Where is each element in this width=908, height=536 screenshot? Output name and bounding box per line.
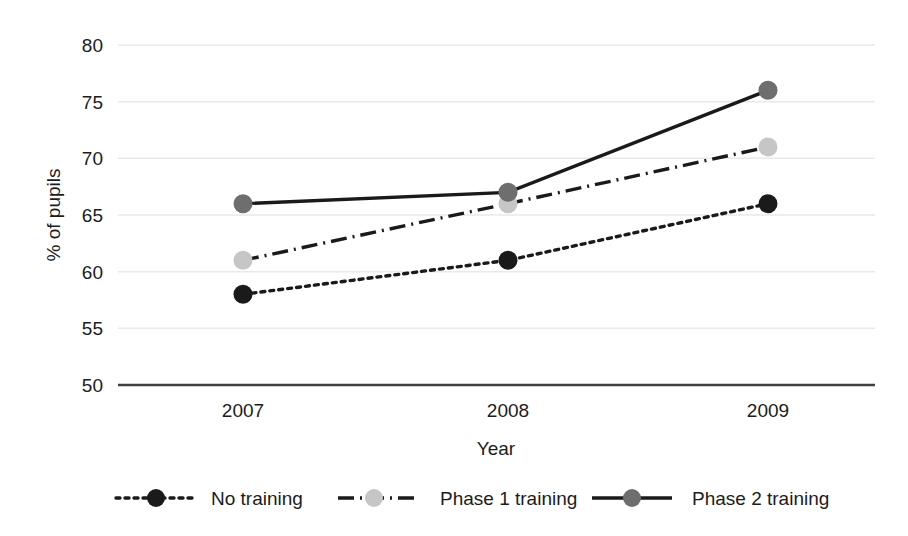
data-point-phase-2-training-2007 (234, 194, 253, 213)
legend: No training Phase 1 training Phase 2 tra… (116, 488, 829, 509)
y-tick-label-60: 60 (82, 262, 103, 283)
x-axis-title: Year (477, 438, 516, 459)
legend-item-phase-2-training[interactable]: Phase 2 training (592, 488, 829, 509)
legend-item-phase-1-training[interactable]: Phase 1 training (338, 488, 577, 509)
data-point-no-training-2008 (499, 251, 518, 270)
y-tick-label-50: 50 (82, 375, 103, 396)
y-tick-label-70: 70 (82, 148, 103, 169)
chart-background (0, 0, 908, 536)
data-point-no-training-2009 (759, 194, 778, 213)
data-point-phase-1-training-2009 (759, 138, 778, 157)
line-chart: 80 75 70 65 60 55 50 % of pupils 2007 20… (0, 0, 908, 536)
y-tick-label-65: 65 (82, 205, 103, 226)
x-tick-label-2009: 2009 (747, 400, 789, 421)
y-tick-label-55: 55 (82, 318, 103, 339)
x-tick-label-2008: 2008 (487, 400, 529, 421)
legend-marker-no-training (147, 489, 165, 507)
legend-label-phase-1-training: Phase 1 training (440, 488, 577, 509)
legend-label-phase-2-training: Phase 2 training (692, 488, 829, 509)
legend-label-no-training: No training (211, 488, 303, 509)
y-tick-label-80: 80 (82, 35, 103, 56)
legend-marker-phase-2-training (623, 489, 641, 507)
x-tick-label-2007: 2007 (222, 400, 264, 421)
data-point-phase-2-training-2008 (499, 183, 518, 202)
y-axis-title: % of pupils (43, 169, 64, 262)
data-point-phase-1-training-2007 (234, 251, 253, 270)
data-point-no-training-2007 (234, 285, 253, 304)
legend-marker-phase-1-training (365, 489, 383, 507)
data-point-phase-2-training-2009 (759, 81, 778, 100)
chart-canvas: 80 75 70 65 60 55 50 % of pupils 2007 20… (0, 0, 908, 536)
y-tick-label-75: 75 (82, 92, 103, 113)
